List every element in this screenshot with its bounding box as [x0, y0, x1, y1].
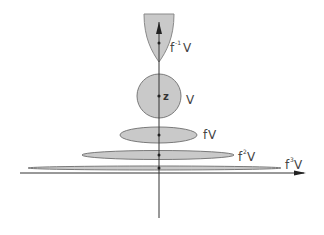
label-f3v-suffix: V: [294, 158, 303, 172]
label-v: V: [186, 93, 195, 107]
point-fz: [158, 134, 161, 137]
label-preimage-exponent: -1: [175, 39, 181, 46]
dynamics-diagram: z f -1 V V f V f 2 V f 3 V: [0, 0, 324, 235]
label-fv-suffix: V: [208, 128, 217, 142]
point-preimage: [158, 42, 161, 45]
point-z: [157, 94, 160, 97]
point-f2z: [158, 154, 161, 157]
label-f2v-suffix: V: [247, 150, 256, 164]
region-f3v-ellipse: [28, 166, 281, 170]
point-z-label: z: [163, 91, 169, 102]
label-preimage-suffix: V: [183, 41, 192, 55]
point-f3z: [158, 167, 161, 170]
